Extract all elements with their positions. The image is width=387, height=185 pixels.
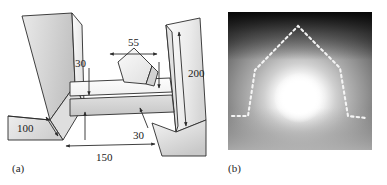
horizontal-beam	[70, 78, 174, 116]
dim-line-150	[66, 144, 155, 146]
panel-a-caption: (a)	[12, 163, 24, 174]
micrograph-frame	[228, 12, 372, 150]
panel-a-schematic: 55 30 200 100 30 150 (a)	[0, 0, 215, 185]
figure-root: 55 30 200 100 30 150 (a)	[0, 0, 387, 185]
beam-lower-slab	[70, 95, 174, 116]
dim-label-55: 55	[128, 37, 139, 48]
dashed-outline-overlay	[228, 12, 372, 150]
beam-upper-slab	[70, 78, 172, 96]
dim-label-30-top: 30	[75, 58, 86, 69]
left-block	[8, 13, 84, 140]
panel-b-caption: (b)	[228, 163, 241, 174]
pentagon-face	[118, 48, 152, 84]
dim-label-150: 150	[96, 152, 113, 163]
panel-b-micrograph: (b)	[215, 0, 387, 185]
dim-label-100: 100	[17, 123, 34, 134]
dim-label-200: 200	[188, 68, 205, 79]
dim-label-30-bottom: 30	[133, 130, 144, 141]
dashed-pentagon-outline	[232, 26, 366, 118]
